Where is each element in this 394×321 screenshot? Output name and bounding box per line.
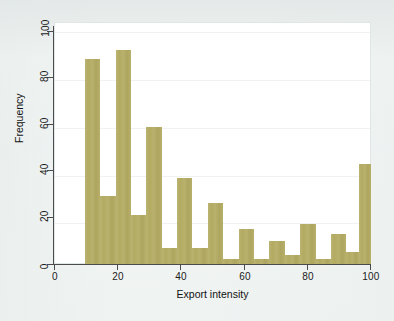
x-tick-label-20: 20 — [112, 271, 124, 282]
x-tick-40 — [180, 265, 181, 270]
x-tick-label-40: 40 — [175, 271, 187, 282]
histogram-bar — [192, 248, 207, 264]
y-tick-label-60: 60 — [40, 118, 51, 130]
x-axis-title: Export intensity — [54, 288, 371, 300]
histogram-bar — [162, 248, 177, 264]
y-tick-label-40: 40 — [40, 164, 51, 176]
histogram-bar — [223, 259, 238, 264]
bars-layer — [54, 22, 371, 264]
x-tick-60 — [244, 265, 245, 270]
histogram-bar — [254, 259, 269, 264]
histogram-bar — [331, 234, 346, 264]
histogram-bar — [100, 196, 115, 264]
y-tick-label-0: 0 — [40, 264, 51, 270]
histogram-bar — [346, 252, 358, 264]
y-axis-title: Frequency — [13, 93, 25, 143]
x-tick-label-60: 60 — [239, 271, 251, 282]
histogram-bar — [177, 178, 192, 264]
x-tick-label-0: 0 — [52, 271, 58, 282]
x-tick-label-80: 80 — [302, 271, 314, 282]
histogram-bar — [316, 259, 331, 264]
histogram-bar — [300, 224, 315, 264]
histogram-bar — [131, 215, 146, 264]
y-tick-label-80: 80 — [40, 71, 51, 83]
histogram-bar — [269, 241, 284, 264]
histogram-bar — [85, 59, 100, 264]
histogram-bar — [239, 229, 254, 264]
histogram-bar — [285, 255, 300, 264]
x-tick-20 — [117, 265, 118, 270]
x-tick-80 — [307, 265, 308, 270]
histogram-bar — [359, 164, 371, 264]
y-tick-label-20: 20 — [40, 211, 51, 223]
y-tick-label-100: 100 — [40, 20, 51, 37]
histogram-bar — [116, 50, 131, 264]
x-tick-0 — [54, 265, 55, 270]
histogram-bar — [208, 203, 223, 264]
x-tick-label-100: 100 — [362, 271, 379, 282]
x-axis-line — [53, 264, 371, 265]
x-tick-100 — [370, 265, 371, 270]
histogram-figure: 0 20 40 60 80 100 0 20 40 60 80 100 Freq… — [0, 0, 394, 321]
histogram-bar — [146, 127, 161, 264]
